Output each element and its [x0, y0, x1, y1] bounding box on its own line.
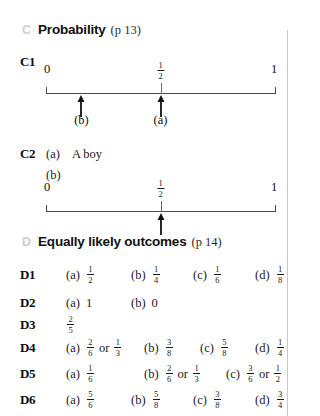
- answer-d5-2: (b)26or13: [144, 364, 201, 384]
- answer-d6-1: (a)56: [66, 390, 95, 410]
- number-line-label-half: 12: [156, 179, 165, 199]
- part-tag: (c): [193, 393, 207, 408]
- answer-d5-3: (c)36or12: [226, 364, 282, 384]
- question-label-d1: D1: [20, 267, 46, 283]
- part-conjunction: or: [99, 341, 109, 356]
- question-row-d4: D4(a)26or13(b)38(c)58(d)14: [20, 339, 46, 357]
- part-tag: (a): [66, 341, 80, 356]
- question-label-d3: D3: [20, 317, 46, 333]
- question-row-c2: C2 (a) A boy: [20, 146, 102, 162]
- fraction-numerator: 1: [278, 338, 282, 348]
- fraction-denominator: 2: [158, 189, 162, 199]
- part-tag: (c): [200, 341, 214, 356]
- fraction-denominator: 6: [248, 374, 252, 384]
- part-tag: (a): [66, 296, 80, 311]
- page-edge-rule: [287, 30, 288, 416]
- answer-d5-1: (a)16: [66, 364, 95, 384]
- answer-d4-1: (a)26or13: [66, 338, 122, 358]
- part-fraction: 38: [214, 390, 221, 410]
- fraction-denominator: 4: [278, 348, 282, 358]
- fraction-denominator: 8: [278, 275, 282, 285]
- number-line-tick-half: [161, 201, 162, 212]
- part-tag: (a): [66, 367, 80, 382]
- section-title-probability: Probability: [38, 22, 106, 37]
- part-fraction: 34: [277, 390, 284, 410]
- answer-d1-3: (c)16: [193, 265, 222, 285]
- question-row-d1: D1(a)12(b)14(c)16(d)18: [20, 266, 46, 284]
- part-fraction-alt: 12: [274, 364, 281, 384]
- fraction-numerator: 1: [194, 364, 198, 374]
- fraction-denominator: 3: [116, 348, 120, 358]
- answer-d4-4: (d)14: [255, 338, 285, 358]
- part-conjunction: or: [178, 367, 188, 382]
- answer-d4-2: (b)38: [144, 338, 174, 358]
- part-fraction: 12: [87, 265, 94, 285]
- number-line-arrow: [156, 213, 165, 235]
- fraction-numerator: 1: [88, 364, 92, 374]
- number-line-label-zero: 0: [44, 180, 50, 195]
- part-tag: (b): [131, 268, 146, 283]
- fraction-numerator: 1: [158, 61, 162, 71]
- answer-d6-3: (c)38: [193, 390, 222, 410]
- number-line-arrow-caption: (b): [74, 113, 89, 128]
- fraction-numerator: 1: [154, 265, 158, 275]
- part-value: 1: [86, 296, 92, 311]
- part-fraction: 56: [87, 390, 94, 410]
- part-tag: (d): [255, 393, 270, 408]
- fraction-numerator: 5: [222, 338, 226, 348]
- fraction-denominator: 2: [88, 275, 92, 285]
- fraction-numerator: 1: [116, 338, 120, 348]
- question-row-d2: D2(a)1(b)0: [20, 294, 46, 312]
- part-fraction: 18: [277, 265, 284, 285]
- section-letter-d: D: [22, 235, 31, 249]
- part-fraction: 38: [166, 338, 173, 358]
- number-line-tick-end: [275, 87, 276, 94]
- fraction-denominator: 4: [154, 275, 158, 285]
- fraction-denominator: 6: [88, 348, 92, 358]
- part-tag: (c): [226, 367, 240, 382]
- fraction-numerator: 1: [278, 265, 282, 275]
- fraction-numerator: 2: [167, 364, 171, 374]
- answer-d1-1: (a)12: [66, 265, 95, 285]
- fraction-denominator: 8: [215, 400, 219, 410]
- number-line-tick-end: [275, 205, 276, 212]
- question-row-d3: D325: [20, 316, 46, 334]
- fraction-denominator: 8: [222, 348, 226, 358]
- part-tag: (a): [66, 268, 80, 283]
- part-tag: (b): [144, 367, 159, 382]
- part-fraction: 26: [166, 364, 173, 384]
- question-row-c1: C1: [20, 54, 46, 70]
- answer-d6-4: (d)34: [255, 390, 285, 410]
- answer-d2-1: (a)1: [66, 296, 92, 311]
- part-fraction: 14: [153, 265, 160, 285]
- number-line-tick-start: [46, 87, 47, 94]
- number-line-label-half: 12: [156, 61, 165, 81]
- number-line-tick-start: [46, 205, 47, 212]
- part-tag-a: (a): [46, 147, 60, 162]
- part-value: 0: [152, 296, 158, 311]
- answer-d3: 25: [66, 315, 75, 335]
- fraction-numerator: 3: [215, 390, 219, 400]
- part-tag: (c): [193, 268, 207, 283]
- question-label-c2: C2: [20, 146, 46, 162]
- fraction-denominator: 8: [167, 348, 171, 358]
- question-label-d6: D6: [20, 392, 46, 408]
- question-label-c1: C1: [20, 54, 46, 70]
- number-line-arrow-caption: (a): [154, 113, 168, 128]
- number-line-label-one: 1: [271, 180, 277, 195]
- part-tag: (b): [131, 296, 146, 311]
- part-conjunction: or: [259, 367, 269, 382]
- part-tag: (b): [131, 393, 146, 408]
- fraction-denominator: 2: [276, 374, 280, 384]
- section-page-ref-c: (p 13): [111, 23, 141, 38]
- fraction-denominator: 4: [278, 400, 282, 410]
- fraction-numerator: 2: [88, 338, 92, 348]
- part-value-a: A boy: [72, 147, 102, 162]
- part-fraction-alt: 13: [114, 338, 121, 358]
- fraction-denominator: 6: [88, 400, 92, 410]
- fraction-numerator: 3: [167, 338, 171, 348]
- number-line-half-fraction: 12: [157, 61, 164, 81]
- answer-d1-2: (b)14: [131, 265, 161, 285]
- question-label-d4: D4: [20, 340, 46, 356]
- part-tag: (a): [66, 393, 80, 408]
